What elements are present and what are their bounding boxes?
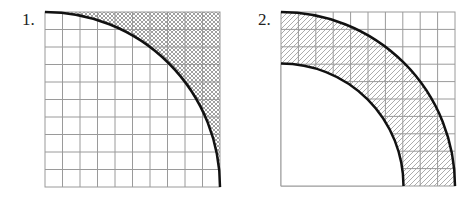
figure-1 bbox=[45, 12, 220, 187]
diagram-canvas bbox=[0, 0, 471, 199]
figure-2 bbox=[281, 12, 455, 186]
